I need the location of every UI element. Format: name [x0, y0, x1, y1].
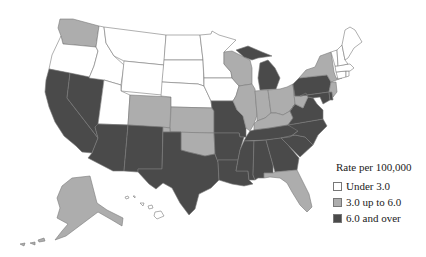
state-nd: [164, 35, 203, 60]
legend-label: 3.0 up to 6.0: [346, 197, 401, 208]
state-nm: [124, 125, 163, 172]
legend-swatch-mid: [333, 198, 342, 207]
state-me: [342, 27, 362, 60]
legend-item-3-to-6: 3.0 up to 6.0: [333, 195, 411, 209]
legend-swatch-high: [333, 214, 342, 223]
state-ia: [204, 78, 239, 101]
state-co: [128, 95, 171, 128]
state-fl: [264, 170, 312, 212]
legend-title: Rate per 100,000: [336, 162, 411, 173]
legend-label: 6.0 and over: [346, 213, 401, 224]
state-wy: [121, 61, 164, 95]
state-ri: [346, 71, 349, 77]
map-legend: Rate per 100,000 Under 3.0 3.0 up to 6.0…: [333, 162, 411, 227]
legend-swatch-low: [333, 182, 342, 191]
state-wa: [58, 19, 99, 47]
legend-item-under-3: Under 3.0: [333, 179, 411, 193]
legend-label: Under 3.0: [346, 181, 390, 192]
state-ct: [336, 71, 346, 79]
state-ks: [170, 107, 214, 133]
state-hi: [125, 196, 164, 219]
legend-item-6-and-over: 6.0 and over: [333, 211, 411, 225]
state-ak: [20, 176, 123, 246]
